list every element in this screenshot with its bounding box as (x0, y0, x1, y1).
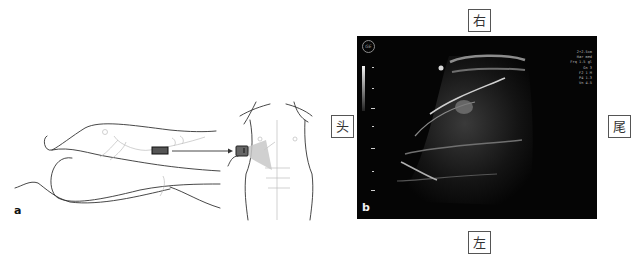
panel-b-ultrasound: GE 2+2.5cm Har med Frq 1.5 gl Gn 3 F2 1 … (357, 36, 597, 219)
panel-a-illustration (0, 80, 330, 230)
scan-parameters: 2+2.5cm Har med Frq 1.5 gl Gn 3 F2 1 M P… (556, 50, 592, 86)
orientation-label-top: 右 (468, 9, 491, 32)
patient-position-drawing (0, 80, 330, 230)
panel-label-a: a (14, 204, 21, 217)
panel-label-b: b (362, 201, 370, 214)
orientation-label-left: 头 (331, 115, 354, 138)
orientation-label-right: 尾 (608, 115, 631, 138)
orientation-label-bottom: 左 (468, 231, 491, 254)
scan-fan (247, 140, 272, 170)
ge-logo-icon: GE (362, 40, 375, 53)
